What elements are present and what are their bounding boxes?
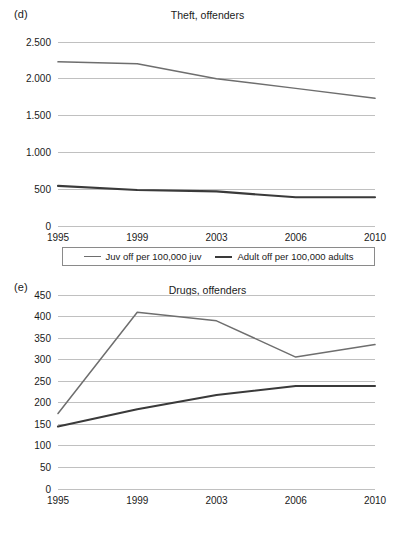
legend-swatch-juv-icon <box>84 256 101 257</box>
y-axis-tick-label: 1.500 <box>26 110 51 121</box>
legend-label-adult: Adult off per 100,000 adults <box>237 251 353 262</box>
x-axis-tick-label: 1995 <box>47 232 70 243</box>
y-axis-tick-label: 400 <box>34 311 51 322</box>
y-axis-tick-label: 150 <box>34 419 51 430</box>
chart-panel-d: (d) Theft, offenders 05001.0001.5002.000… <box>0 0 393 273</box>
y-axis-tick-label: 0 <box>45 221 51 232</box>
y-axis-tick-label: 300 <box>34 354 51 365</box>
x-axis-tick-label: 2006 <box>285 495 308 506</box>
line-chart-theft-offenders: 05001.0001.5002.0002.5001995199920032006… <box>0 0 393 273</box>
series-line-juv <box>58 312 375 413</box>
y-axis-tick-label: 2.000 <box>26 73 51 84</box>
x-axis-tick-label: 1995 <box>47 495 70 506</box>
series-line-adult <box>58 386 375 427</box>
x-axis-tick-label: 2003 <box>205 495 228 506</box>
y-axis-tick-label: 50 <box>40 462 52 473</box>
x-axis-tick-label: 2010 <box>364 232 387 243</box>
legend-label-juv: Juv off per 100,000 juv <box>106 251 202 262</box>
y-axis-tick-label: 1.000 <box>26 147 51 158</box>
y-axis-tick-label: 450 <box>34 290 51 301</box>
y-axis-tick-label: 2.500 <box>26 37 51 48</box>
chart-panel-e: (e) Drugs, offenders 0501001502002503003… <box>0 273 393 546</box>
series-line-juv <box>58 62 375 98</box>
legend-entry-juv-d: Juv off per 100,000 juv <box>84 251 202 262</box>
x-axis-tick-label: 1999 <box>126 232 149 243</box>
y-axis-tick-label: 0 <box>45 484 51 495</box>
legend-swatch-adult-icon <box>215 256 232 258</box>
x-axis-tick-label: 1999 <box>126 495 149 506</box>
y-axis-tick-label: 500 <box>34 184 51 195</box>
y-axis-tick-label: 100 <box>34 440 51 451</box>
series-line-adult <box>58 186 375 197</box>
x-axis-tick-label: 2003 <box>205 232 228 243</box>
y-axis-tick-label: 200 <box>34 397 51 408</box>
x-axis-tick-label: 2006 <box>285 232 308 243</box>
figure-page: (d) Theft, offenders 05001.0001.5002.000… <box>0 0 393 546</box>
line-chart-drugs-offenders: 0501001502002503003504004501995199920032… <box>0 273 393 546</box>
y-axis-tick-label: 250 <box>34 376 51 387</box>
x-axis-tick-label: 2010 <box>364 495 387 506</box>
legend-entry-adult-d: Adult off per 100,000 adults <box>215 251 353 262</box>
chart-legend-d: Juv off per 100,000 juv Adult off per 10… <box>62 247 375 266</box>
y-axis-tick-label: 350 <box>34 333 51 344</box>
